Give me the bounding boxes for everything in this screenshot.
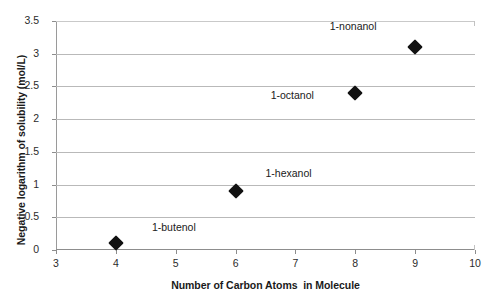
x-tick-mark [355, 250, 356, 254]
y-tick-label: 2.5 [0, 79, 46, 91]
gridline [56, 54, 475, 55]
y-tick-mark [52, 54, 56, 55]
y-tick-label: 1 [0, 178, 46, 190]
plot-edge-cap [474, 21, 475, 26]
x-tick-mark [176, 250, 177, 254]
x-tick-mark [56, 250, 57, 254]
y-tick-mark [52, 119, 56, 120]
x-axis-line [56, 249, 475, 250]
gridline [56, 86, 475, 87]
x-tick-mark [236, 250, 237, 254]
x-axis-title: Number of Carbon Atoms in Molecule [56, 279, 475, 291]
gridline [56, 152, 475, 153]
gridline [56, 21, 475, 22]
x-tick-label: 5 [161, 257, 191, 269]
y-tick-mark [52, 152, 56, 153]
data-point-marker [348, 85, 364, 101]
y-axis-line [56, 21, 57, 250]
data-point-label: 1-octanol [271, 89, 314, 101]
plot-area: 1-butenol1-hexanol1-octanol1-nonanol [56, 21, 475, 250]
x-tick-label: 10 [460, 257, 490, 269]
x-tick-label: 9 [400, 257, 430, 269]
gridline [56, 185, 475, 186]
data-point-label: 1-nonanol [330, 20, 377, 32]
chart-container: Negative logarithm of solubility (mol/L)… [0, 0, 503, 307]
y-tick-mark [52, 86, 56, 87]
y-tick-label: 0 [0, 243, 46, 255]
y-tick-label: 1.5 [0, 145, 46, 157]
x-tick-label: 8 [340, 257, 370, 269]
x-tick-label: 6 [221, 257, 251, 269]
y-tick-mark [52, 185, 56, 186]
x-tick-label: 7 [280, 257, 310, 269]
y-tick-label: 3.5 [0, 14, 46, 26]
y-tick-label: 0.5 [0, 210, 46, 222]
x-tick-label: 4 [101, 257, 131, 269]
y-tick-mark [52, 217, 56, 218]
data-point-label: 1-butenol [152, 221, 196, 233]
y-tick-label: 2 [0, 112, 46, 124]
x-tick-mark [295, 250, 296, 254]
data-point-marker [407, 39, 423, 55]
x-tick-mark [415, 250, 416, 254]
x-tick-mark [475, 250, 476, 254]
gridline [56, 217, 475, 218]
gridline [56, 119, 475, 120]
y-tick-mark [52, 21, 56, 22]
data-point-label: 1-hexanol [266, 167, 312, 179]
x-tick-label: 3 [41, 257, 71, 269]
y-tick-label: 3 [0, 47, 46, 59]
